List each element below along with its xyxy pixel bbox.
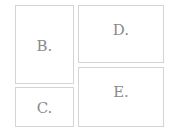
panel-d-label: D. xyxy=(113,21,129,39)
panel-d: D. xyxy=(78,5,164,63)
panel-e-label: E. xyxy=(113,83,129,101)
panel-b: B. xyxy=(15,5,74,84)
panel-e: E. xyxy=(78,67,164,127)
panel-c-label: C. xyxy=(37,99,53,117)
panel-b-label: B. xyxy=(37,37,53,55)
panel-c: C. xyxy=(15,87,74,127)
